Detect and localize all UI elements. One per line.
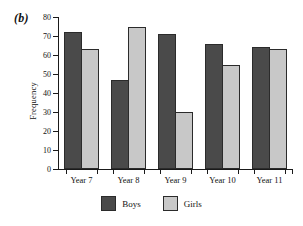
x-tick-mark	[144, 169, 145, 174]
y-tick-label: 30	[43, 108, 51, 117]
legend-swatch-boys	[101, 196, 116, 211]
y-tick-label: 40	[43, 89, 51, 98]
y-tick-label: 50	[43, 70, 51, 79]
bar-boys-year-9[interactable]	[158, 34, 176, 169]
bar-chart-figure: (b) Frequency 01020304050607080 Year 7Ye…	[0, 0, 303, 226]
x-tick-mark	[97, 169, 98, 174]
bar-group-year-7	[58, 17, 105, 169]
x-tick-mark	[207, 169, 208, 174]
bar-group-year-8	[105, 17, 152, 169]
bar-girls-year-7[interactable]	[81, 49, 99, 169]
legend-swatch-girls	[163, 196, 178, 211]
y-tick-label: 10	[43, 146, 51, 155]
y-tick-label: 60	[43, 51, 51, 60]
bar-girls-year-8[interactable]	[128, 27, 146, 170]
x-tick-mark	[285, 169, 286, 174]
legend-item-girls[interactable]: Girls	[163, 196, 202, 211]
y-axis-title: Frequency	[28, 46, 38, 156]
bar-boys-year-8[interactable]	[111, 80, 129, 169]
x-axis-labels: Year 7Year 8Year 9Year 10Year 11	[58, 175, 293, 189]
x-tick-mark	[292, 169, 293, 174]
y-tick-label: 0	[47, 165, 51, 174]
bar-boys-year-11[interactable]	[252, 47, 270, 169]
y-tick-label: 70	[43, 32, 51, 41]
x-tick-mark	[238, 169, 239, 174]
x-tick-label-year-10: Year 10	[199, 175, 246, 189]
bar-boys-year-7[interactable]	[64, 32, 82, 169]
bar-girls-year-11[interactable]	[269, 49, 287, 169]
bar-girls-year-9[interactable]	[175, 112, 193, 169]
legend-label-boys: Boys	[122, 199, 141, 209]
panel-label: (b)	[14, 11, 29, 26]
bar-group-year-9	[152, 17, 199, 169]
y-tick-label: 20	[43, 127, 51, 136]
legend-item-boys[interactable]: Boys	[101, 196, 141, 211]
x-tick-mark	[113, 169, 114, 174]
x-tick-label-year-8: Year 8	[105, 175, 152, 189]
legend-label-girls: Girls	[184, 199, 202, 209]
x-tick-label-year-11: Year 11	[246, 175, 293, 189]
chart-legend: BoysGirls	[0, 196, 303, 211]
bar-boys-year-10[interactable]	[205, 44, 223, 169]
bar-group-year-11	[246, 17, 293, 169]
bar-group-year-10	[199, 17, 246, 169]
x-tick-mark	[254, 169, 255, 174]
x-tick-label-year-7: Year 7	[58, 175, 105, 189]
x-tick-mark	[160, 169, 161, 174]
plot-area: 01020304050607080	[58, 17, 293, 169]
x-tick-mark	[191, 169, 192, 174]
bar-groups	[58, 17, 293, 169]
y-tick-label: 80	[43, 13, 51, 22]
x-tick-label-year-9: Year 9	[152, 175, 199, 189]
x-tick-mark	[66, 169, 67, 174]
bar-girls-year-10[interactable]	[222, 65, 240, 170]
